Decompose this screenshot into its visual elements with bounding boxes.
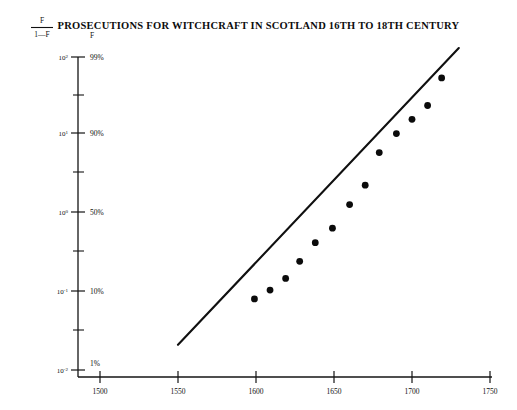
chart-canvas: F 1—F F 102 101 100 10-1 — [0, 0, 517, 410]
y-label-pct-3: 10% — [90, 287, 104, 296]
data-point — [267, 287, 274, 294]
y-label-pct-4: 1% — [90, 359, 100, 368]
y-label-pct-1: 90% — [90, 129, 104, 138]
y-axis-percent-labels: 99% 90% 50% 10% 1% — [90, 53, 104, 368]
data-point — [376, 149, 383, 156]
y-label-odds-2: 100 — [59, 209, 69, 218]
x-label-0: 1500 — [93, 387, 108, 396]
y-label-odds-3: 10-1 — [57, 288, 69, 297]
y-axis-odds-labels: 102 101 100 10-1 10-2 — [57, 54, 69, 376]
y-axis-header-denominator: 1—F — [34, 30, 49, 39]
data-point — [393, 130, 400, 137]
data-point — [438, 75, 445, 82]
y-label-odds-4: 10-2 — [57, 367, 69, 376]
data-point — [346, 201, 353, 208]
data-point — [329, 225, 336, 232]
data-point-group — [251, 75, 445, 303]
x-label-5: 1750 — [483, 387, 498, 396]
y-label-odds-0: 102 — [59, 54, 69, 63]
y-label-odds-1: 101 — [59, 130, 69, 139]
data-point — [296, 258, 303, 265]
data-point — [424, 102, 431, 109]
fitted-trend-line — [178, 48, 459, 345]
data-point — [251, 296, 258, 303]
y-axis-header-numerator: F — [40, 16, 44, 25]
y-axis-odds-header: F 1—F — [31, 16, 53, 39]
y-axis-percent-header: F — [90, 31, 94, 40]
data-point — [312, 239, 319, 246]
x-label-1: 1550 — [171, 387, 186, 396]
x-label-3: 1650 — [327, 387, 342, 396]
x-label-4: 1700 — [405, 387, 420, 396]
data-point — [282, 275, 289, 282]
data-point — [362, 182, 369, 189]
witchcraft-prosecutions-figure: PROSECUTIONS FOR WITCHCRAFT IN SCOTLAND … — [0, 0, 517, 410]
y-label-pct-0: 99% — [90, 53, 104, 62]
x-label-2: 1600 — [249, 387, 264, 396]
y-label-pct-2: 50% — [90, 208, 104, 217]
data-point — [409, 116, 416, 123]
x-axis-labels: 1500 1550 1600 1650 1700 1750 — [93, 387, 498, 396]
